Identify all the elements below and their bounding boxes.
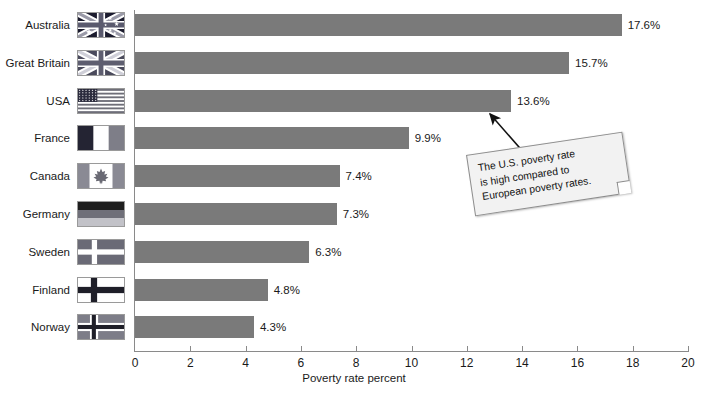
x-axis-title: Poverty rate percent xyxy=(0,372,708,384)
bar xyxy=(135,52,569,74)
x-axis-tick-label: 4 xyxy=(231,356,261,370)
x-axis-tick xyxy=(412,346,413,351)
x-axis-line xyxy=(134,351,689,352)
x-axis-tick xyxy=(633,346,634,351)
bar-value-label: 4.3% xyxy=(260,316,286,338)
poverty-rate-bar-chart: Australia 17.6%Great Britain 15.7%USA13.… xyxy=(0,0,708,396)
country-label: Germany xyxy=(0,198,70,230)
flag-norway-icon xyxy=(77,314,125,340)
bar-value-label: 13.6% xyxy=(517,90,550,112)
annotation-note-text: The U.S. poverty rate is high compared t… xyxy=(477,140,624,204)
y-axis-line xyxy=(134,10,135,351)
x-axis-tick xyxy=(467,346,468,351)
bar-value-label: 7.3% xyxy=(343,203,369,225)
x-axis-tick-label: 10 xyxy=(397,356,427,370)
bar xyxy=(135,127,409,149)
x-axis-tick-label: 18 xyxy=(618,356,648,370)
country-label: Great Britain xyxy=(0,47,70,79)
country-label: USA xyxy=(0,85,70,117)
flag-finland-icon xyxy=(77,277,125,303)
bar xyxy=(135,14,622,36)
x-axis-tick xyxy=(522,346,523,351)
bar xyxy=(135,90,511,112)
bar-value-label: 6.3% xyxy=(315,241,341,263)
x-axis-tick-label: 20 xyxy=(673,356,703,370)
bar-value-label: 7.4% xyxy=(346,165,372,187)
chart-row: Great Britain 15.7% xyxy=(0,47,708,79)
x-axis-tick-label: 14 xyxy=(507,356,537,370)
chart-row: Norway 4.3% xyxy=(0,311,708,343)
country-label: Australia xyxy=(0,9,70,41)
bar-value-label: 17.6% xyxy=(628,14,661,36)
chart-row: Sweden 6.3% xyxy=(0,236,708,268)
bar xyxy=(135,316,254,338)
flag-sweden-icon xyxy=(77,239,125,265)
x-axis-tick xyxy=(356,346,357,351)
chart-row: Germany 7.3% xyxy=(0,198,708,230)
x-axis-tick-label: 6 xyxy=(286,356,316,370)
country-label: Sweden xyxy=(0,236,70,268)
country-label: Norway xyxy=(0,311,70,343)
bar xyxy=(135,279,268,301)
x-axis-tick-label: 8 xyxy=(341,356,371,370)
bar-value-label: 15.7% xyxy=(575,52,608,74)
x-axis-tick-label: 16 xyxy=(562,356,592,370)
x-axis-tick-label: 0 xyxy=(120,356,150,370)
chart-row: Finland 4.8% xyxy=(0,274,708,306)
country-label: France xyxy=(0,122,70,154)
x-axis-tick xyxy=(688,346,689,351)
flag-france-icon xyxy=(77,125,125,151)
flag-canada-icon xyxy=(77,163,125,189)
bar xyxy=(135,203,337,225)
x-axis-tick xyxy=(190,346,191,351)
bar xyxy=(135,165,340,187)
x-axis-tick xyxy=(246,346,247,351)
x-axis-tick-label: 2 xyxy=(175,356,205,370)
x-axis-tick xyxy=(577,346,578,351)
chart-row: USA13.6% xyxy=(0,85,708,117)
country-label: Canada xyxy=(0,160,70,192)
country-label: Finland xyxy=(0,274,70,306)
x-axis-tick xyxy=(301,346,302,351)
flag-great-britain-icon xyxy=(77,50,125,76)
x-axis-tick-label: 12 xyxy=(452,356,482,370)
bar-value-label: 9.9% xyxy=(415,127,441,149)
cropped-title-fragment xyxy=(0,0,708,7)
flag-germany-icon xyxy=(77,201,125,227)
flag-usa-icon xyxy=(77,88,125,114)
bar xyxy=(135,241,309,263)
bar-value-label: 4.8% xyxy=(274,279,300,301)
flag-australia-icon xyxy=(77,12,125,38)
chart-row: Australia 17.6% xyxy=(0,9,708,41)
